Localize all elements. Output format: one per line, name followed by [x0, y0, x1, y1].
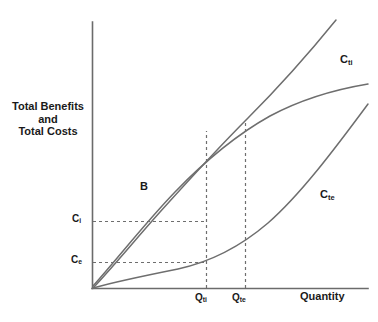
chart-plot-area — [0, 0, 378, 322]
curve-label-cte-sub: te — [328, 193, 335, 202]
x-tick-qte-base: Q — [232, 292, 240, 303]
curve-label-b: B — [140, 180, 148, 193]
y-axis-title-line-3: Total Costs — [6, 125, 90, 138]
y-tick-label-ci: Ci — [72, 213, 81, 225]
curve-label-cte-base: C — [320, 188, 328, 200]
x-axis-title: Quantity — [300, 290, 345, 303]
economics-cost-benefit-chart: Total Benefits and Total Costs Quantity … — [0, 0, 378, 322]
y-axis-title-line-2: and — [6, 113, 90, 126]
y-tick-label-ce: Ce — [71, 254, 82, 266]
curve-label-cti: Cti — [340, 53, 353, 67]
curve-label-cte: Cte — [320, 188, 335, 202]
y-axis-title: Total Benefits and Total Costs — [6, 100, 90, 138]
x-tick-qti-base: Q — [195, 292, 203, 303]
x-tick-qti-sub: ti — [203, 296, 207, 303]
y-tick-ce-sub: e — [78, 258, 82, 265]
y-tick-ci-sub: i — [79, 217, 81, 224]
x-tick-label-qti: Qti — [195, 292, 207, 304]
x-tick-label-qte: Qte — [232, 292, 246, 304]
y-axis-title-line-1: Total Benefits — [6, 100, 90, 113]
curve-total-benefits — [93, 84, 368, 286]
x-tick-qte-sub: te — [240, 296, 246, 303]
curve-label-cti-sub: ti — [348, 58, 353, 67]
curve-label-cti-base: C — [340, 53, 348, 65]
